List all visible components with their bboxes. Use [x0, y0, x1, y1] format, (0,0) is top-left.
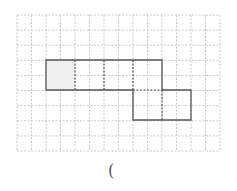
grid-diagram	[0, 0, 237, 191]
answer-blank: (	[108, 163, 114, 179]
